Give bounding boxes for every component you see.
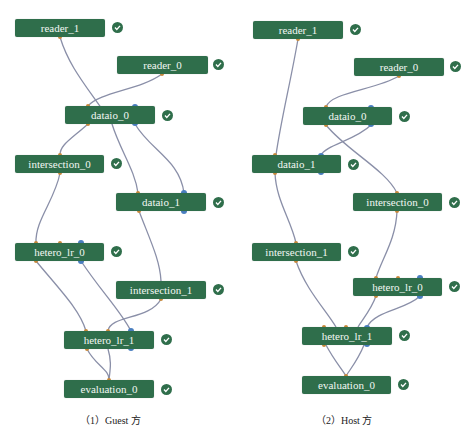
success-check-icon — [399, 111, 410, 122]
success-check-icon — [213, 59, 224, 70]
success-check-icon — [213, 284, 224, 295]
success-check-icon — [398, 379, 409, 390]
node-dataio-0[interactable]: dataio_0 — [65, 106, 155, 124]
node-reader-0[interactable]: reader_0 — [117, 56, 208, 74]
success-check-icon — [348, 159, 359, 170]
node-evaluation-0[interactable]: evaluation_0 — [302, 376, 391, 394]
node-dataio-0[interactable]: dataio_0 — [303, 107, 392, 125]
success-check-icon — [350, 24, 361, 35]
success-check-icon — [162, 110, 173, 121]
success-check-icon — [161, 384, 172, 395]
node-intersection-0[interactable]: intersection_0 — [15, 155, 104, 173]
node-hetero-lr-0[interactable]: hetero_lr_0 — [15, 243, 104, 261]
guest-panel: reader_1 reader_0 dataio_0 intersection_… — [0, 0, 236, 439]
success-check-icon — [213, 197, 224, 208]
node-reader-0[interactable]: reader_0 — [354, 58, 444, 76]
node-intersection-1[interactable]: intersection_1 — [116, 281, 206, 299]
success-check-icon — [450, 61, 461, 72]
host-panel: reader_1 reader_0 dataio_0 dataio_1 inte… — [236, 0, 472, 439]
node-reader-1[interactable]: reader_1 — [15, 19, 105, 37]
success-check-icon — [348, 246, 359, 257]
success-check-icon — [449, 281, 460, 292]
success-check-icon — [399, 330, 410, 341]
node-evaluation-0[interactable]: evaluation_0 — [64, 380, 154, 398]
node-dataio-1[interactable]: dataio_1 — [252, 155, 341, 173]
node-hetero-lr-1[interactable]: hetero_lr_1 — [64, 331, 154, 349]
success-check-icon — [161, 334, 172, 345]
guest-caption: （1）Guest 方 — [80, 412, 141, 427]
success-check-icon — [449, 197, 460, 208]
node-reader-1[interactable]: reader_1 — [253, 21, 343, 39]
host-caption: （2）Host 方 — [316, 412, 372, 427]
success-check-icon — [112, 22, 123, 33]
node-intersection-1[interactable]: intersection_1 — [252, 243, 341, 261]
node-hetero-lr-1[interactable]: hetero_lr_1 — [302, 327, 392, 345]
node-hetero-lr-0[interactable]: hetero_lr_0 — [353, 278, 442, 296]
success-check-icon — [111, 246, 122, 257]
success-check-icon — [111, 158, 122, 169]
node-intersection-0[interactable]: intersection_0 — [353, 193, 442, 211]
node-dataio-1[interactable]: dataio_1 — [116, 193, 206, 211]
